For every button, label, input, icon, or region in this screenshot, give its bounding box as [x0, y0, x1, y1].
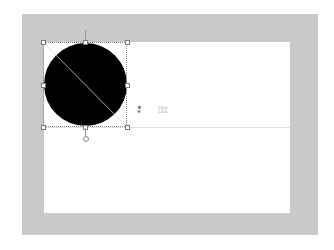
rotation-handle-icon[interactable]: [83, 136, 89, 142]
selection-bounding-box[interactable]: [43, 42, 127, 127]
resize-handle-bottom-right[interactable]: [125, 125, 130, 130]
resize-handle-right[interactable]: [125, 83, 130, 88]
horizontal-guide[interactable]: [44, 127, 290, 128]
resize-handle-top-right[interactable]: [125, 40, 130, 45]
rotation-stem: [85, 128, 86, 136]
resize-handle-top[interactable]: [83, 40, 88, 45]
resize-handle-left[interactable]: [41, 83, 46, 88]
resize-handle-bottom-left[interactable]: [41, 125, 46, 130]
dimension-tooltip: W 1.15 in H 1.15 in: [138, 106, 167, 114]
height-label: H: [138, 110, 146, 114]
height-row: H 1.15 in: [138, 110, 167, 114]
resize-handle-top-left[interactable]: [41, 40, 46, 45]
height-value: 1.15 in: [158, 110, 167, 114]
